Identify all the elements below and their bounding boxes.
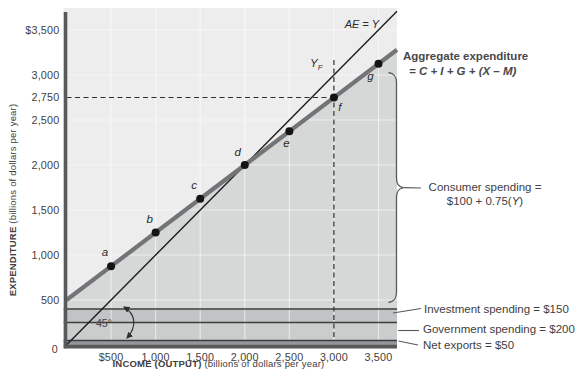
- y-tick-label: 500: [41, 294, 60, 306]
- ae-equals-y-label: AE = Y: [345, 18, 379, 31]
- government-spending-band: [64, 323, 397, 341]
- y-tick-label: $3,500: [25, 24, 59, 36]
- y-tick-label: 1,500: [31, 204, 59, 216]
- yf-subscript: F: [318, 63, 323, 72]
- aggregate-expenditure-label: Aggregate expenditure = C + I + G + (X –…: [403, 49, 573, 79]
- investment-spending-band: [64, 309, 397, 323]
- net-exports-leader-line: [399, 341, 419, 345]
- data-point-d: [241, 161, 249, 169]
- investment-leader-line: [393, 309, 421, 314]
- data-point-label-g: g: [367, 70, 374, 82]
- y-tick-label: 2,500: [31, 114, 59, 126]
- y-axis-title-units: (billions of dollars per year): [7, 104, 18, 227]
- x-axis-title-main: INCOME (OUTPUT): [113, 358, 202, 369]
- y-tick-label: 0: [52, 343, 58, 355]
- data-point-a: [107, 262, 115, 270]
- consumer-spending-formula: $100 + 0.75(Y): [421, 194, 549, 208]
- keynesian-cross-figure: abcdefg$3,5003,0002,7502,5002,0001,5001,…: [0, 0, 577, 386]
- data-point-label-e: e: [283, 137, 289, 149]
- y-tick-label: 2,750: [31, 91, 59, 103]
- data-point-label-c: c: [191, 179, 197, 191]
- data-point-label-b: b: [146, 213, 153, 225]
- net-exports-label: Net exports = $50: [423, 339, 514, 353]
- x-axis-title-units: (billions of dollars per year): [202, 358, 325, 369]
- data-point-e: [285, 127, 293, 135]
- data-point-b: [152, 229, 160, 237]
- aggregate-expenditure-title: Aggregate expenditure: [403, 49, 573, 64]
- data-point-f: [330, 94, 338, 102]
- investment-spending-label: Investment spending = $150: [424, 303, 569, 317]
- consumer-spending-label: Consumer spending = $100 + 0.75(Y): [421, 180, 549, 209]
- yf-symbol: Y: [310, 57, 318, 69]
- consumer-formula-pre: $100 + 0.75(: [447, 195, 512, 207]
- data-point-g: [374, 60, 382, 68]
- data-point-c: [196, 195, 204, 203]
- data-point-label-a: a: [102, 246, 108, 258]
- y-tick-label: 1,000: [31, 249, 59, 261]
- y-tick-label: 3,000: [31, 69, 59, 81]
- consumer-formula-post: ): [519, 195, 523, 207]
- angle-45-label: 45°: [96, 317, 112, 330]
- full-employment-output-label: YF: [310, 57, 323, 73]
- y-tick-label: 2,000: [31, 159, 59, 171]
- government-spending-label: Government spending = $200: [423, 323, 575, 337]
- y-axis-title-main: EXPENDITURE: [7, 227, 18, 297]
- consumer-spending-title: Consumer spending =: [421, 180, 549, 194]
- x-axis-title: INCOME (OUTPUT) (billions of dollars per…: [66, 358, 371, 369]
- y-axis-title: EXPENDITURE (billions of dollars per yea…: [7, 104, 18, 297]
- aggregate-expenditure-formula: = C + I + G + (X – M): [403, 64, 573, 79]
- data-point-label-d: d: [235, 146, 242, 158]
